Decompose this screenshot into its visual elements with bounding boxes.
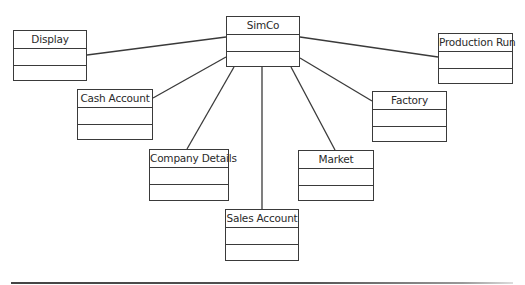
class-operations: [78, 125, 152, 140]
class-name: Production Run: [439, 34, 512, 52]
class-attributes: [299, 169, 373, 186]
class-attributes: [226, 228, 298, 245]
class-attributes: [373, 110, 446, 127]
class-name: Sales Account: [226, 210, 298, 228]
class-operations: [299, 186, 373, 201]
class-name: Factory: [373, 92, 446, 110]
line-simco-display: [87, 37, 226, 55]
class-display: Display: [13, 30, 87, 81]
class-name: Cash Account: [78, 90, 152, 108]
bottom-divider: [11, 282, 513, 284]
class-factory: Factory: [372, 91, 447, 142]
line-simco-cash-account: [153, 57, 226, 98]
class-market: Market: [298, 150, 374, 201]
class-operations: [439, 69, 512, 84]
class-attributes: [150, 168, 228, 185]
class-attributes: [14, 49, 86, 66]
class-attributes: [227, 35, 299, 52]
class-diagram: SimCo Display Production Run Cash Accoun…: [0, 0, 525, 285]
class-name: Display: [14, 31, 86, 49]
class-name: SimCo: [227, 17, 299, 35]
class-operations: [150, 185, 228, 200]
class-simco: SimCo: [226, 16, 300, 67]
class-name: Company Details: [150, 150, 228, 168]
class-production-run: Production Run: [438, 33, 513, 84]
class-attributes: [78, 108, 152, 125]
class-cash-account: Cash Account: [77, 89, 153, 140]
class-company-details: Company Details: [149, 149, 229, 201]
class-attributes: [439, 52, 512, 69]
line-simco-factory: [300, 58, 372, 101]
class-operations: [373, 127, 446, 142]
line-simco-market: [291, 67, 335, 150]
line-simco-production-run: [300, 37, 438, 57]
class-operations: [226, 245, 298, 260]
class-operations: [227, 52, 299, 67]
class-sales-account: Sales Account: [225, 209, 299, 261]
class-name: Market: [299, 151, 373, 169]
class-operations: [14, 66, 86, 81]
line-simco-company-details: [187, 67, 234, 149]
